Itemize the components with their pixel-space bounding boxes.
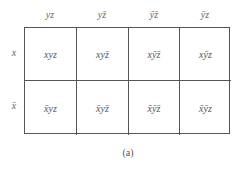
column-header-ybar-z: ȳz <box>179 9 231 20</box>
column-header-y-zbar: yz̄ <box>76 9 128 20</box>
cell-xbar-y-zbar: x̄yz̄ <box>77 81 129 135</box>
cell-x-ybar-z: xȳz <box>180 28 231 81</box>
cell-xyz: xyz <box>25 28 77 81</box>
karnaugh-map-grid: xyz xyz̄ xȳz̄ xȳz x̄yz x̄yz̄ x̄ȳz̄ x̄ȳz <box>24 27 230 134</box>
column-header-yz: yz <box>24 9 76 20</box>
column-header-ybar-zbar: ȳz̄ <box>128 9 180 20</box>
cell-x-y-zbar: xyz̄ <box>77 28 129 81</box>
row-label-x: x <box>8 47 20 58</box>
cell-x-ybar-zbar: xȳz̄ <box>129 28 180 81</box>
row-label-xbar: x̄ <box>8 100 20 111</box>
cell-xbar-y-z: x̄yz <box>25 81 77 135</box>
figure-caption: (a) <box>108 147 148 158</box>
cell-xbar-ybar-zbar: x̄ȳz̄ <box>129 81 180 135</box>
cell-xbar-ybar-z: x̄ȳz <box>180 81 231 135</box>
